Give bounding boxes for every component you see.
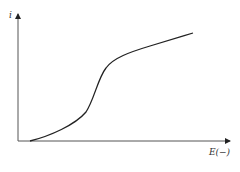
y-axis-label: i [9, 10, 12, 20]
chart [0, 0, 240, 172]
x-axis-label: E(−) [209, 147, 230, 157]
curve [30, 33, 193, 141]
